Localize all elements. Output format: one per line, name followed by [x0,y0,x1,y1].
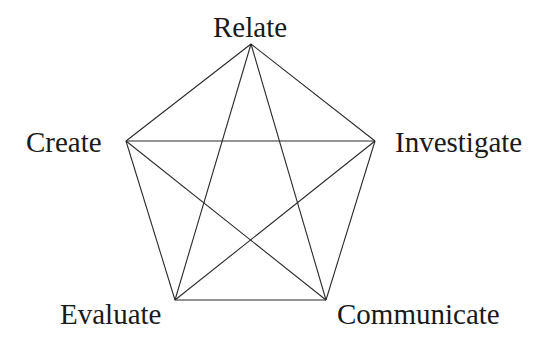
node-label-evaluate: Evaluate [60,300,161,329]
edge-relate-investigate [251,44,375,141]
node-label-communicate: Communicate [337,300,500,329]
pentagram-diagram: Relate Investigate Communicate Evaluate … [0,0,547,342]
edge-create-relate [126,44,251,141]
edge-relate-evaluate [175,44,251,300]
edge-relate-communicate [251,44,326,300]
edge-create-communicate [126,141,326,300]
edges-layer [0,0,547,342]
edge-evaluate-create [126,141,175,300]
edge-investigate-evaluate [175,141,375,300]
node-label-relate: Relate [213,13,287,42]
node-label-create: Create [26,128,102,157]
edge-investigate-communicate [326,141,375,300]
node-label-investigate: Investigate [395,128,522,157]
